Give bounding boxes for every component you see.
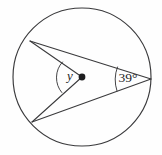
center-point-dot	[79, 74, 86, 81]
circle-geometry-svg: y 39°	[0, 0, 162, 155]
inscribed-angle-label: 39°	[119, 70, 138, 85]
segment-upper-left-vertex-to-center	[30, 41, 82, 77]
chord-lower-left-vertex-to-right-vertex	[32, 79, 151, 122]
geometry-diagram: y 39°	[0, 0, 162, 155]
central-angle-label: y	[65, 68, 73, 83]
central-angle-arc-marker	[56, 62, 62, 93]
inscribed-angle-arc-marker	[115, 67, 117, 91]
